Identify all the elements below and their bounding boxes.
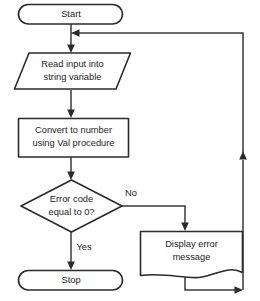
node-stop[interactable]: Stop bbox=[19, 271, 123, 291]
flowchart-svg: Start Read input into string variable Co… bbox=[0, 0, 260, 301]
decision-label-line-1: Error code bbox=[50, 194, 93, 204]
node-read-input[interactable]: Read input into string variable bbox=[15, 53, 131, 89]
arrow-head-icon bbox=[67, 172, 75, 181]
start-label: Start bbox=[61, 9, 81, 19]
read-input-label-line-1: Read input into bbox=[41, 59, 104, 69]
arrow-head-icon bbox=[235, 286, 244, 294]
decision-label-line-2: equal to 0? bbox=[48, 207, 94, 217]
node-display-error[interactable]: Display error message bbox=[141, 232, 243, 278]
arrow-head-icon bbox=[67, 262, 75, 271]
node-convert[interactable]: Convert to number using Val procedure bbox=[19, 119, 129, 158]
read-input-label-line-2: string variable bbox=[44, 72, 102, 82]
branch-label-yes: Yes bbox=[76, 242, 92, 252]
arrow-head-icon bbox=[67, 45, 75, 54]
connector-read-input-to-convert bbox=[67, 90, 75, 118]
arrow-head-icon bbox=[181, 223, 189, 232]
stop-label: Stop bbox=[61, 275, 80, 285]
connector-decision-yes-to-stop bbox=[67, 232, 75, 270]
display-error-label-line-1: Display error bbox=[165, 239, 218, 249]
node-start[interactable]: Start bbox=[19, 5, 123, 25]
connector-decision-no-to-display-error bbox=[122, 206, 189, 231]
connector-start-to-read-input bbox=[67, 24, 75, 53]
arrow-head-icon bbox=[71, 29, 80, 37]
flowchart-canvas: Start Read input into string variable Co… bbox=[0, 0, 260, 301]
convert-label-line-1: Convert to number bbox=[35, 125, 112, 135]
branch-label-no: No bbox=[125, 188, 137, 198]
node-decision[interactable]: Error code equal to 0? bbox=[21, 180, 122, 232]
connector-convert-to-decision bbox=[67, 157, 75, 180]
display-error-label-line-2: message bbox=[173, 252, 211, 262]
convert-label-line-2: using Val procedure bbox=[32, 138, 114, 148]
arrow-head-icon bbox=[67, 110, 75, 119]
